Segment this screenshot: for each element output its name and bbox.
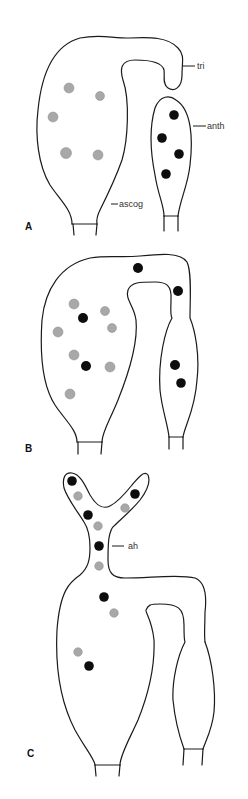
- female-nucleus: [105, 362, 115, 372]
- female-nucleus: [95, 562, 104, 571]
- antheridium-outline-c: [203, 642, 215, 749]
- panel-b: B: [25, 254, 198, 454]
- stalk-left-a: [73, 224, 74, 235]
- antheridium-stalk-left-c: [183, 749, 184, 765]
- stalk-right-c: [119, 765, 120, 776]
- male-nucleus: [169, 110, 179, 120]
- male-nucleus: [170, 360, 180, 370]
- ascogonium-outline-a: [37, 36, 183, 224]
- male-nucleus: [157, 133, 167, 143]
- panel-label-b: B: [25, 443, 32, 454]
- male-nucleus: [133, 263, 143, 273]
- female-nucleus: [61, 148, 72, 159]
- panel-c: ah C: [27, 473, 215, 776]
- label-ah: ah: [128, 541, 138, 551]
- female-nucleus: [53, 327, 63, 337]
- male-nucleus: [99, 592, 109, 602]
- female-nucleus: [74, 648, 83, 657]
- male-nucleus: [94, 541, 104, 551]
- female-nucleus: [101, 307, 110, 316]
- female-nucleus: [69, 350, 79, 360]
- stalk-right-a: [96, 224, 97, 235]
- female-nucleus: [64, 83, 74, 93]
- label-anth: anth: [207, 121, 225, 131]
- trichogyne-inner-b: [102, 282, 172, 442]
- female-nucleus: [74, 492, 83, 501]
- male-nucleus: [161, 169, 171, 179]
- female-nucleus: [65, 389, 75, 399]
- female-nucleus: [110, 609, 119, 618]
- female-nucleus: [93, 150, 103, 160]
- female-nucleus: [48, 112, 58, 122]
- ascogonium-outline-b: [41, 254, 198, 442]
- male-nucleus: [176, 378, 186, 388]
- antheridium-stalk-right-c: [202, 749, 203, 765]
- male-nucleus: [84, 661, 94, 671]
- diagram-canvas: tri anth ascog A B: [0, 0, 248, 799]
- stalk-left-c: [95, 765, 96, 776]
- male-nucleus: [67, 476, 77, 486]
- male-nucleus: [78, 313, 88, 323]
- panel-label-c: C: [27, 748, 34, 759]
- female-nucleus: [121, 504, 130, 513]
- female-nucleus: [69, 299, 79, 309]
- panel-label-a: A: [25, 221, 32, 232]
- male-nucleus: [83, 510, 93, 520]
- panel-a: tri anth ascog A: [25, 36, 225, 235]
- female-nucleus: [96, 92, 105, 101]
- female-nucleus: [94, 522, 103, 531]
- male-nucleus: [81, 361, 91, 371]
- male-nucleus: [130, 489, 140, 499]
- trichogyne-inner-c: [120, 604, 185, 765]
- male-nucleus: [173, 286, 183, 296]
- label-tri: tri: [197, 61, 205, 71]
- female-nucleus: [108, 324, 117, 333]
- stalk-right-b: [101, 442, 102, 454]
- label-ascog: ascog: [119, 199, 143, 209]
- male-nucleus: [174, 149, 184, 159]
